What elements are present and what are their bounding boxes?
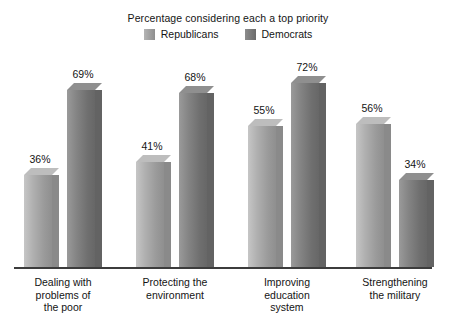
category-label-line: the military xyxy=(335,289,455,302)
bar-side-face xyxy=(276,126,283,267)
bar-front-face xyxy=(67,90,95,267)
bar-front-face xyxy=(136,162,164,267)
category-label-line: Strengthening xyxy=(335,276,455,289)
bar-front-face xyxy=(24,175,52,267)
bar-value-label: 36% xyxy=(29,153,50,165)
x-axis-baseline xyxy=(14,267,432,269)
bar-value-label: 72% xyxy=(296,61,317,73)
bar-value-label: 34% xyxy=(404,158,425,170)
plot-area: 36%69%Dealing withproblems ofthe poor41%… xyxy=(0,0,456,331)
bar-front-face xyxy=(248,126,276,267)
bar-top-face xyxy=(24,168,59,175)
bar-republicans-1 xyxy=(24,175,52,267)
bar-side-face xyxy=(164,162,171,267)
bar-side-face xyxy=(52,175,59,267)
bar-democrats-4 xyxy=(399,180,427,267)
category-label-line: environment xyxy=(115,289,235,302)
bar-side-face xyxy=(427,180,434,267)
category-label-line: system xyxy=(227,301,347,314)
bar-democrats-3 xyxy=(291,83,319,267)
category-label-line: Protecting the xyxy=(115,276,235,289)
bar-top-face xyxy=(356,117,391,124)
bar-value-label: 55% xyxy=(253,104,274,116)
category-label-line: problems of xyxy=(3,289,123,302)
bar-value-label: 41% xyxy=(141,140,162,152)
category-label-4: Strengtheningthe military xyxy=(335,276,455,301)
bar-side-face xyxy=(384,124,391,267)
bar-side-face xyxy=(207,93,214,267)
bar-top-face xyxy=(399,173,434,180)
bar-value-label: 56% xyxy=(361,102,382,114)
category-label-1: Dealing withproblems ofthe poor xyxy=(3,276,123,314)
bar-republicans-4 xyxy=(356,124,384,267)
category-label-3: Improvingeducationsystem xyxy=(227,276,347,314)
category-label-line: education xyxy=(227,289,347,302)
bar-value-label: 68% xyxy=(184,71,205,83)
bar-republicans-2 xyxy=(136,162,164,267)
bar-front-face xyxy=(399,180,427,267)
category-label-line: Dealing with xyxy=(3,276,123,289)
bar-top-face xyxy=(291,76,326,83)
category-label-2: Protecting theenvironment xyxy=(115,276,235,301)
bar-chart: Percentage considering each a top priori… xyxy=(0,0,456,331)
bar-front-face xyxy=(291,83,319,267)
bar-top-face xyxy=(67,83,102,90)
bar-democrats-1 xyxy=(67,90,95,267)
bar-democrats-2 xyxy=(179,93,207,267)
bar-top-face xyxy=(248,119,283,126)
category-label-line: the poor xyxy=(3,301,123,314)
bar-front-face xyxy=(179,93,207,267)
bar-value-label: 69% xyxy=(72,68,93,80)
bar-side-face xyxy=(95,90,102,267)
category-label-line: Improving xyxy=(227,276,347,289)
bar-top-face xyxy=(179,86,214,93)
bar-republicans-3 xyxy=(248,126,276,267)
bar-front-face xyxy=(356,124,384,267)
bar-top-face xyxy=(136,155,171,162)
bar-side-face xyxy=(319,83,326,267)
